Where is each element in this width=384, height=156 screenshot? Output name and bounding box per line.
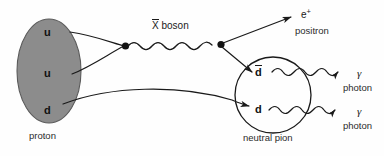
neutral-pion-caption: neutral pion bbox=[243, 133, 293, 143]
feynman-diagram-proton-decay: u u d proton X boson e+ positron d d neu… bbox=[0, 0, 384, 156]
proton-quark-label-u2: u bbox=[44, 68, 51, 79]
down-quark-long-curve bbox=[63, 89, 249, 106]
vertex-dot-right bbox=[217, 41, 224, 48]
photon-symbol-1: γ bbox=[357, 68, 361, 79]
antidown-quark-line bbox=[222, 47, 252, 72]
photon-caption-1: photon bbox=[343, 83, 372, 93]
x-boson-symbol: X bbox=[152, 21, 159, 31]
x-boson-text: boson bbox=[161, 20, 188, 31]
positron-symbol-label: e+ bbox=[301, 10, 311, 20]
pion-quark-label-down: d bbox=[255, 104, 262, 115]
positron-charge: + bbox=[307, 7, 311, 16]
proton-quark-label-u1: u bbox=[44, 27, 51, 38]
photon-caption-2: photon bbox=[343, 121, 372, 131]
positron-line bbox=[223, 17, 291, 43]
proton-caption: proton bbox=[29, 131, 56, 141]
photon-symbol-2: γ bbox=[357, 106, 361, 117]
positron-caption: positron bbox=[295, 26, 329, 36]
antidown-symbol: d bbox=[255, 67, 262, 78]
quark-line-u1 bbox=[70, 32, 124, 46]
x-boson-wavy-line bbox=[128, 42, 212, 49]
pion-quark-label-antidown: d bbox=[255, 67, 262, 78]
diagram-canvas bbox=[0, 0, 384, 156]
photon-wavy-line-2 bbox=[269, 107, 335, 114]
proton-quark-label-d: d bbox=[44, 105, 51, 116]
x-boson-label: X boson bbox=[152, 21, 189, 31]
